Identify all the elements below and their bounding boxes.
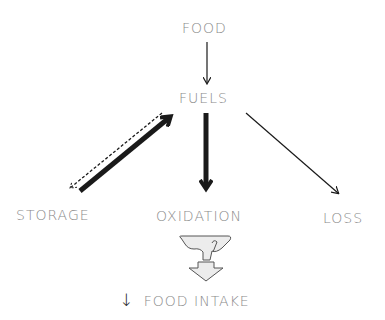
node-food: FOOD — [182, 21, 227, 35]
node-storage: STORAGE — [16, 208, 90, 222]
funnel-arrow-icon — [180, 236, 231, 281]
down-arrow-icon: ↓ — [119, 290, 134, 310]
result-food-intake: ↓ FOOD INTAKE — [119, 292, 250, 309]
node-fuels: FUELS — [179, 91, 228, 105]
flow-diagram — [0, 0, 385, 320]
arrow-storage-to-fuels — [80, 117, 170, 191]
arrow-fuels-to-loss — [246, 113, 338, 193]
node-loss: LOSS — [323, 211, 363, 225]
food-intake-label: FOOD INTAKE — [144, 293, 250, 309]
arrow-fuels-to-storage-dashed — [70, 113, 162, 188]
node-oxidation: OXIDATION — [156, 209, 242, 223]
